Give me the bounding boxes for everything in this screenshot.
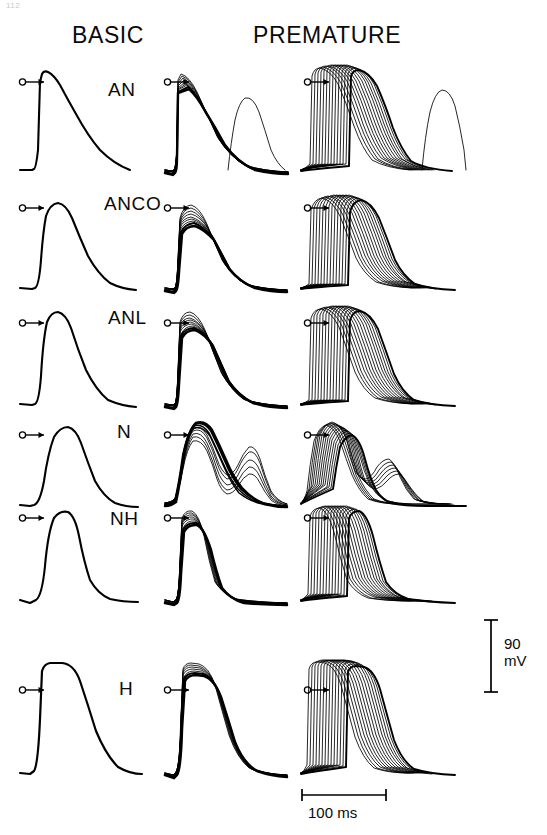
vertical-scale-unit: mV <box>504 653 527 670</box>
zero-marker-an-premature-1 <box>163 75 197 93</box>
zero-marker-h-basic <box>18 683 52 701</box>
vertical-scale-label: 90 mV <box>504 636 527 670</box>
panel-h-premature-2 <box>300 655 470 780</box>
zero-marker-anl-premature-1 <box>163 316 197 334</box>
zero-marker-n-premature-2 <box>303 428 337 446</box>
column-header-basic: BASIC <box>72 22 144 49</box>
vertical-scale-value: 90 <box>504 636 527 653</box>
zero-marker-an-premature-2 <box>303 75 337 93</box>
zero-marker-nh-basic <box>18 511 52 529</box>
zero-marker-nh-premature-2 <box>303 511 337 529</box>
zero-marker-an-basic <box>18 75 52 93</box>
panel-h-basic <box>18 655 158 780</box>
zero-marker-nh-premature-1 <box>163 511 197 529</box>
zero-marker-anco-premature-1 <box>163 201 197 219</box>
zero-marker-h-premature-1 <box>163 683 197 701</box>
corner-page-mark: 112 <box>6 1 20 10</box>
horizontal-scale-label: 100 ms <box>308 805 357 821</box>
zero-marker-h-premature-2 <box>303 683 337 701</box>
zero-marker-anco-basic <box>18 201 52 219</box>
zero-marker-anl-basic <box>18 316 52 334</box>
zero-marker-anco-premature-2 <box>303 201 337 219</box>
zero-marker-anl-premature-2 <box>303 316 337 334</box>
vertical-scale-bar <box>480 614 502 702</box>
column-header-premature: PREMATURE <box>253 22 401 49</box>
zero-marker-n-basic <box>18 428 52 446</box>
figure-canvas: 112 BASIC PREMATURE AN ANCO ANL N NH H <box>0 0 547 835</box>
panel-h-premature-1 <box>163 655 298 780</box>
zero-marker-n-premature-1 <box>163 428 197 446</box>
